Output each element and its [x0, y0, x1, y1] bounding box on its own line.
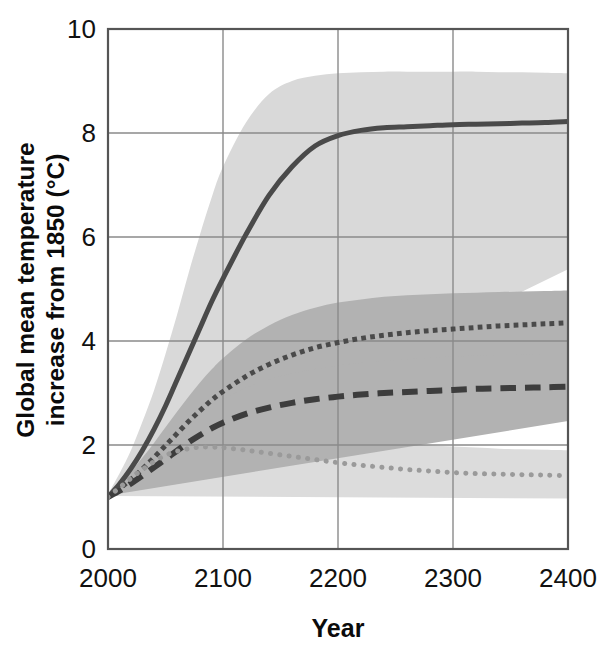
climate-projection-figure: 20002100220023002400 0246810 Year Global…: [0, 0, 614, 647]
x-tick-label-2000: 2000: [79, 563, 137, 593]
temperature-projection-chart: 20002100220023002400 0246810 Year Global…: [0, 0, 614, 647]
y-tick-label-0: 0: [82, 534, 96, 564]
y-tick-label-10: 10: [67, 14, 96, 44]
y-tick-label-2: 2: [82, 430, 96, 460]
x-tick-label-2100: 2100: [194, 563, 252, 593]
x-tick-label-2300: 2300: [424, 563, 482, 593]
x-axis-title: Year: [312, 614, 365, 642]
y-axis-title-line2: increase from 1850 (°C): [42, 154, 69, 427]
x-tick-label-2400: 2400: [539, 563, 597, 593]
y-axis-title-line1: Global mean temperature: [12, 142, 39, 437]
y-tick-label-4: 4: [82, 326, 96, 356]
y-tick-label-6: 6: [82, 222, 96, 252]
x-tick-label-2200: 2200: [309, 563, 367, 593]
y-tick-label-8: 8: [82, 118, 96, 148]
